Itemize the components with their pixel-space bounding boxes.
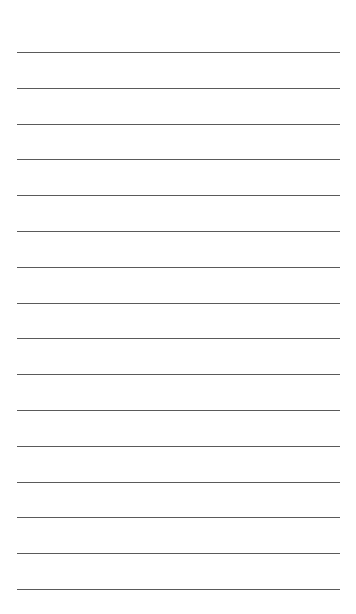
ruled-line (17, 52, 340, 53)
ruled-line (17, 303, 340, 304)
ruled-line (17, 589, 340, 590)
ruled-line (17, 267, 340, 268)
lined-page (0, 0, 356, 614)
ruled-line (17, 338, 340, 339)
ruled-line (17, 195, 340, 196)
ruled-line (17, 410, 340, 411)
ruled-line (17, 159, 340, 160)
ruled-line (17, 231, 340, 232)
ruled-line (17, 88, 340, 89)
ruled-line (17, 553, 340, 554)
ruled-line (17, 446, 340, 447)
ruled-line (17, 124, 340, 125)
ruled-line (17, 517, 340, 518)
ruled-line (17, 482, 340, 483)
ruled-line (17, 374, 340, 375)
